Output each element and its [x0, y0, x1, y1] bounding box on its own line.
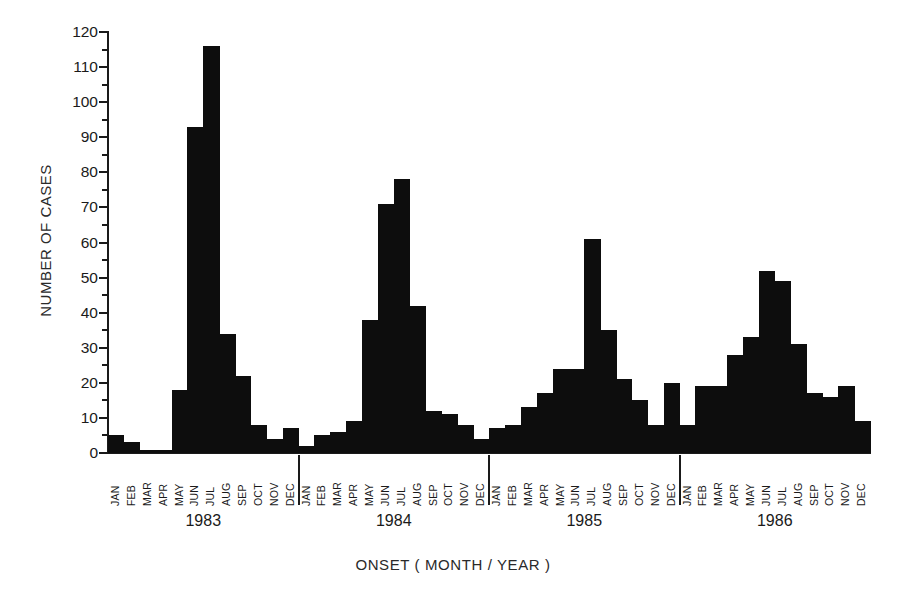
- y-tick-major: [99, 382, 108, 384]
- year-label: 1985: [554, 512, 614, 530]
- bar: [584, 239, 600, 453]
- month-label: JAN: [681, 486, 693, 506]
- bar: [648, 425, 664, 453]
- bar: [362, 320, 378, 453]
- month-label: JUN: [760, 485, 772, 506]
- month-label: FEB: [696, 485, 708, 506]
- bar: [235, 376, 251, 453]
- bar: [727, 355, 743, 453]
- month-label: JUL: [585, 487, 597, 506]
- bar: [822, 397, 838, 453]
- bar: [807, 393, 823, 453]
- bar: [330, 432, 346, 453]
- y-tick-minor: [102, 49, 108, 51]
- month-label: FEB: [506, 485, 518, 506]
- bar: [664, 383, 680, 453]
- y-axis-title: NUMBER OF CASES: [37, 91, 54, 391]
- bar: [695, 386, 711, 453]
- y-tick-label: 120: [72, 23, 98, 41]
- bar: [537, 393, 553, 453]
- y-tick-minor: [102, 154, 108, 156]
- bar: [743, 337, 759, 453]
- month-label: MAR: [141, 482, 153, 506]
- month-label: APR: [728, 484, 740, 506]
- month-label: MAY: [554, 483, 566, 506]
- y-tick-label: 60: [81, 233, 98, 251]
- bar: [124, 442, 140, 453]
- month-label: NOV: [268, 483, 280, 506]
- month-label: JAN: [490, 486, 502, 506]
- y-tick-label: 20: [81, 373, 98, 391]
- month-label: OCT: [442, 483, 454, 506]
- bar: [251, 425, 267, 453]
- bar: [775, 281, 791, 453]
- bar: [172, 390, 188, 453]
- y-tick-minor: [102, 259, 108, 261]
- bar: [838, 386, 854, 453]
- month-label: FEB: [315, 485, 327, 506]
- month-label: NOV: [458, 483, 470, 506]
- bar: [108, 435, 124, 453]
- month-label: SEP: [617, 484, 629, 506]
- bar: [219, 334, 235, 453]
- month-label: DEC: [284, 483, 296, 506]
- month-label: OCT: [252, 483, 264, 506]
- year-separator: [488, 455, 490, 505]
- y-tick-major: [99, 452, 108, 454]
- month-label: APR: [347, 484, 359, 506]
- y-tick-minor: [102, 329, 108, 331]
- bar: [568, 369, 584, 453]
- month-label: AUG: [220, 483, 232, 506]
- month-label: SEP: [427, 484, 439, 506]
- month-label: JUL: [204, 487, 216, 506]
- y-tick-label: 70: [81, 198, 98, 216]
- bar: [505, 425, 521, 453]
- y-tick-major: [99, 31, 108, 33]
- month-label: APR: [538, 484, 550, 506]
- y-tick-minor: [102, 119, 108, 121]
- month-label: JUN: [379, 485, 391, 506]
- bar: [378, 204, 394, 453]
- bar: [156, 450, 172, 454]
- bar: [473, 439, 489, 453]
- y-tick-label: 100: [72, 93, 98, 111]
- y-tick-minor: [102, 224, 108, 226]
- bar: [346, 421, 362, 453]
- bar: [140, 450, 156, 454]
- year-separator: [679, 455, 681, 505]
- bar: [600, 330, 616, 453]
- plot-area: 0102030405060708090100110120: [108, 32, 870, 453]
- bar: [299, 446, 315, 453]
- y-tick-label: 30: [81, 338, 98, 356]
- y-tick-minor: [102, 189, 108, 191]
- month-label: NOV: [839, 483, 851, 506]
- month-label: MAY: [173, 483, 185, 506]
- year-label: 1986: [745, 512, 805, 530]
- month-label: JUN: [188, 485, 200, 506]
- y-tick-minor: [102, 294, 108, 296]
- month-label: JAN: [109, 486, 121, 506]
- bar: [759, 271, 775, 453]
- y-tick-label: 50: [81, 268, 98, 286]
- bar: [441, 414, 457, 453]
- year-label: 1984: [364, 512, 424, 530]
- y-tick-label: 0: [89, 444, 98, 462]
- bar: [457, 425, 473, 453]
- month-label: MAR: [522, 482, 534, 506]
- bar: [489, 428, 505, 453]
- month-label: SEP: [808, 484, 820, 506]
- month-label: SEP: [236, 484, 248, 506]
- bar: [791, 344, 807, 453]
- month-label: JUN: [569, 485, 581, 506]
- bar: [267, 439, 283, 453]
- x-axis-title: ONSET ( MONTH / YEAR ): [0, 556, 906, 573]
- bar: [314, 435, 330, 453]
- month-label: AUG: [411, 483, 423, 506]
- y-tick-label: 110: [73, 58, 98, 76]
- bar: [711, 386, 727, 453]
- y-tick-label: 40: [81, 303, 98, 321]
- bar: [521, 407, 537, 453]
- bar: [616, 379, 632, 453]
- month-label: MAR: [331, 482, 343, 506]
- y-tick-minor: [102, 84, 108, 86]
